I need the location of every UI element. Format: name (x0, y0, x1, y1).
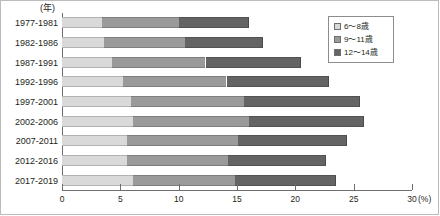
x-axis-unit-label: (%) (418, 194, 431, 204)
legend-label-12-14: 12～14歳 (344, 49, 378, 57)
bar-segment (62, 76, 123, 87)
bar-segment (62, 175, 133, 186)
stacked-bar-chart: (年) 1977-19811982-19861987-19911992-1996… (0, 0, 440, 216)
bar-segment (62, 57, 112, 68)
y-axis-label: 2007-2011 (16, 136, 58, 146)
bar-segment (131, 96, 244, 107)
legend-swatch-icon-6-8 (334, 23, 341, 30)
bar-segment (62, 96, 131, 107)
bar-row (62, 116, 364, 127)
bar-segment (112, 57, 205, 68)
bar-segment (62, 116, 133, 127)
x-axis-tick-15 (237, 184, 238, 190)
bar-segment (185, 37, 263, 48)
legend-item-12-14: 12～14歳 (334, 47, 387, 58)
bar-segment (102, 17, 179, 28)
x-axis-tick-label-30: 30 (407, 194, 416, 204)
bar-segment (238, 135, 347, 146)
x-axis-tick-label-15: 15 (232, 194, 241, 204)
legend-swatch-icon-12-14 (334, 49, 341, 56)
bar-row (62, 76, 329, 87)
bar-row (62, 57, 301, 68)
x-axis-tick-label-10: 10 (174, 194, 183, 204)
x-axis-tick-25 (354, 184, 355, 190)
bar-row (62, 96, 360, 107)
x-axis-tick-label-5: 5 (118, 194, 123, 204)
bar-segment (133, 175, 235, 186)
bar-segment (133, 116, 249, 127)
legend-swatch-icon-9-11 (334, 36, 341, 43)
bar-segment (206, 57, 302, 68)
bar-segment (62, 37, 104, 48)
x-axis-tick-5 (120, 184, 121, 190)
bar-segment (62, 135, 127, 146)
legend-item-6-8: 6～8歳 (334, 21, 387, 32)
x-axis-tick-label-25: 25 (349, 194, 358, 204)
bar-segment (244, 96, 360, 107)
bar-segment (62, 17, 102, 28)
bar-segment (228, 155, 326, 166)
x-axis-tick-30 (412, 184, 413, 190)
y-axis-category-labels: 1977-19811982-19861987-19911992-19961997… (0, 13, 62, 190)
x-axis-tick-10 (179, 184, 180, 190)
legend-item-9-11: 9～11歳 (334, 34, 387, 45)
y-axis-label: 2017-2019 (15, 176, 58, 186)
y-axis-label: 1977-1981 (15, 18, 58, 28)
y-axis-label: 2002-2006 (15, 117, 58, 127)
legend-label-9-11: 9～11歳 (344, 36, 373, 44)
bar-segment (249, 116, 365, 127)
y-axis-label: 2012-2016 (15, 156, 58, 166)
bar-segment (127, 155, 227, 166)
bar-segment (62, 155, 127, 166)
bar-segment (235, 175, 337, 186)
x-axis-tick-0 (62, 184, 63, 190)
chart-legend: 6～8歳 9～11歳 12～14歳 (328, 16, 394, 63)
bar-row (62, 135, 347, 146)
bar-segment (123, 76, 227, 87)
x-axis-tick-20 (295, 184, 296, 190)
x-axis-tick-label-0: 0 (60, 194, 65, 204)
bar-segment (127, 135, 238, 146)
bar-segment (227, 76, 330, 87)
bar-row (62, 17, 249, 28)
bar-row (62, 155, 326, 166)
y-axis-label: 1987-1991 (15, 58, 58, 68)
y-axis-label: 1992-1996 (15, 77, 58, 87)
y-axis-label: 1982-1986 (15, 38, 58, 48)
y-axis-label: 1997-2001 (15, 97, 58, 107)
bar-row (62, 37, 263, 48)
x-axis-line (62, 190, 412, 191)
legend-label-6-8: 6～8歳 (344, 23, 369, 31)
bar-segment (104, 37, 185, 48)
x-axis-tick-label-20: 20 (291, 194, 300, 204)
bar-segment (179, 17, 249, 28)
